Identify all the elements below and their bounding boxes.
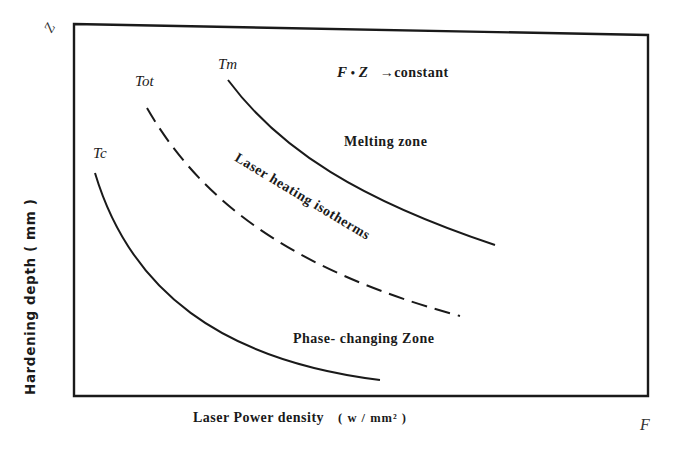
label-tot: Tot [135, 73, 154, 90]
melting-zone-label: Melting zone [344, 134, 427, 150]
x-axis-letter: F [640, 416, 650, 434]
formula-f: F [337, 64, 347, 80]
curve-tm [228, 80, 495, 245]
x-axis-unit: ( w / mm² ) [338, 411, 407, 425]
label-tm: Tm [218, 56, 237, 73]
phase-changing-zone-label: Phase- changing Zone [293, 331, 434, 347]
y-axis-label: Hardening depth ( mm ) [22, 199, 38, 395]
formula-fz-constant: F • Z →constant [337, 64, 449, 81]
formula-z: Z [359, 64, 368, 80]
label-tc: Tc [93, 145, 107, 162]
formula-rhs: →constant [380, 65, 449, 80]
formula-dot: • [351, 66, 355, 80]
x-axis-label: Laser Power density [193, 410, 324, 425]
x-axis-label-group: Laser Power density ( w / mm² ) [193, 408, 407, 426]
curve-tc [95, 173, 380, 380]
